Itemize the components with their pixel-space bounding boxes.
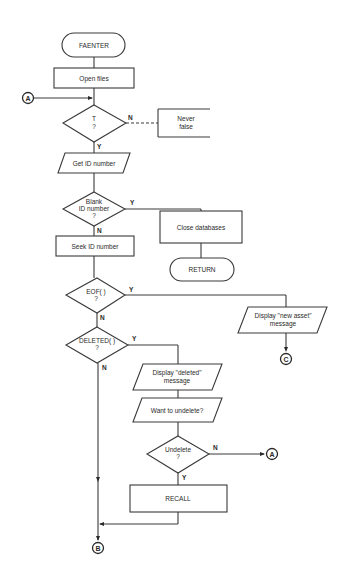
svg-text:Y: Y bbox=[132, 335, 137, 342]
decision-undelete: Undelete ? N Y bbox=[147, 436, 218, 481]
svg-text:Y: Y bbox=[130, 199, 135, 206]
flowchart: FAENTER Open files A T ? N Y Never false… bbox=[0, 0, 347, 584]
svg-text:?: ? bbox=[92, 123, 96, 130]
decision-eof: EOF( ) ? Y N bbox=[66, 278, 134, 321]
svg-text:Y: Y bbox=[97, 143, 102, 150]
svg-text:Open files: Open files bbox=[79, 75, 109, 83]
recall-process: RECALL bbox=[130, 485, 227, 512]
svg-text:N: N bbox=[213, 444, 218, 451]
new-asset-io: Display "new asset" message bbox=[238, 307, 327, 333]
svg-text:FAENTER: FAENTER bbox=[79, 42, 109, 49]
return-terminal: RETURN bbox=[170, 258, 234, 281]
svg-text:ID number: ID number bbox=[79, 205, 110, 212]
svg-text:A: A bbox=[269, 451, 274, 458]
connector-c-out: C bbox=[281, 354, 292, 365]
svg-text:message: message bbox=[164, 377, 191, 385]
svg-text:N: N bbox=[128, 114, 133, 121]
seek-id-process: Seek ID number bbox=[56, 236, 134, 256]
svg-text:Display "deleted": Display "deleted" bbox=[152, 369, 202, 377]
svg-text:Close databases: Close databases bbox=[177, 224, 226, 231]
want-undelete-io: Want to undelete? bbox=[133, 398, 222, 422]
svg-text:B: B bbox=[95, 545, 100, 552]
decision-blank-id: Blank ID number ? Y N bbox=[63, 192, 135, 234]
svg-text:Want to undelete?: Want to undelete? bbox=[151, 407, 204, 414]
svg-text:Y: Y bbox=[182, 474, 187, 481]
decision-t: T ? N Y bbox=[63, 105, 133, 150]
svg-text:N: N bbox=[97, 227, 102, 234]
svg-text:N: N bbox=[100, 314, 105, 321]
svg-text:?: ? bbox=[92, 212, 96, 219]
svg-text:?: ? bbox=[176, 453, 180, 460]
close-databases-process: Close databases bbox=[160, 211, 242, 243]
never-false-annotation: Never false bbox=[177, 115, 195, 130]
svg-text:false: false bbox=[179, 123, 193, 130]
svg-text:Display "new asset": Display "new asset" bbox=[255, 312, 313, 320]
svg-text:RETURN: RETURN bbox=[188, 266, 215, 273]
svg-text:N: N bbox=[102, 364, 107, 371]
svg-text:message: message bbox=[270, 320, 297, 328]
open-files-process: Open files bbox=[54, 68, 134, 88]
connector-a-in: A bbox=[23, 93, 34, 104]
svg-text:C: C bbox=[283, 356, 288, 363]
decision-deleted: DELETED( ) ? Y N bbox=[66, 327, 137, 371]
svg-text:Get ID number: Get ID number bbox=[73, 160, 116, 167]
svg-text:T: T bbox=[92, 115, 96, 122]
svg-text:RECALL: RECALL bbox=[165, 495, 191, 502]
connector-a-out: A bbox=[267, 449, 278, 460]
get-id-io: Get ID number bbox=[58, 153, 130, 173]
svg-text:Never: Never bbox=[177, 115, 195, 122]
svg-text:A: A bbox=[25, 95, 30, 102]
svg-text:Y: Y bbox=[129, 286, 134, 293]
deleted-message-io: Display "deleted" message bbox=[133, 364, 222, 390]
svg-text:?: ? bbox=[95, 344, 99, 351]
svg-text:?: ? bbox=[94, 295, 98, 302]
svg-text:Undelete: Undelete bbox=[165, 446, 191, 453]
svg-text:Blank: Blank bbox=[86, 198, 103, 205]
connector-b-out: B bbox=[93, 543, 104, 554]
svg-text:Seek ID number: Seek ID number bbox=[72, 243, 120, 250]
start-terminal: FAENTER bbox=[62, 33, 125, 57]
